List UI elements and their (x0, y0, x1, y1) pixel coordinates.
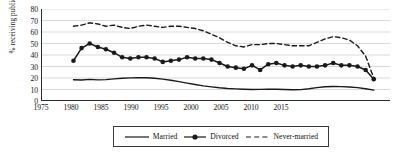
y-tick: 70 (16, 18, 38, 26)
y-tick: 10 (16, 87, 38, 95)
legend-item-married: Married (124, 132, 177, 142)
x-tick: 2015 (261, 104, 301, 112)
y-tick: 60 (16, 29, 38, 37)
chart-svg (41, 9, 390, 101)
y-tick: 20 (16, 75, 38, 83)
legend-item-never-married: Never-married (245, 132, 319, 142)
y-tick: 50 (16, 41, 38, 49)
y-tick: 40 (16, 52, 38, 60)
y-tick: 80 (16, 6, 38, 14)
legend-label-never-married: Never-married (274, 132, 319, 141)
y-axis-ticks: 80 70 60 50 40 30 20 10 0 (12, 0, 38, 110)
legend-label-married: Married (153, 132, 177, 141)
legend-item-divorced: Divorced (183, 132, 238, 142)
legend-swatch-marker-line (183, 132, 207, 142)
chart-container: % receiving public aid 80 70 60 50 40 30… (0, 0, 419, 152)
legend-swatch-dashed-line (245, 132, 271, 142)
chart-legend: Married Divorced Never-married (113, 126, 329, 147)
legend-label-divorced: Divorced (210, 132, 238, 141)
y-tick: 30 (16, 64, 38, 72)
plot-area (41, 9, 390, 101)
legend-swatch-solid-line (124, 132, 150, 142)
